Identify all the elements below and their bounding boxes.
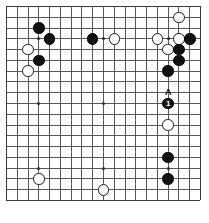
stone-move-number: 1 — [162, 100, 174, 108]
go-board[interactable]: 1A — [0, 0, 209, 223]
board-point-label: A — [162, 88, 174, 97]
board-label-layer: 1A — [0, 0, 209, 223]
go-diagram-root: 1A — [0, 0, 209, 223]
